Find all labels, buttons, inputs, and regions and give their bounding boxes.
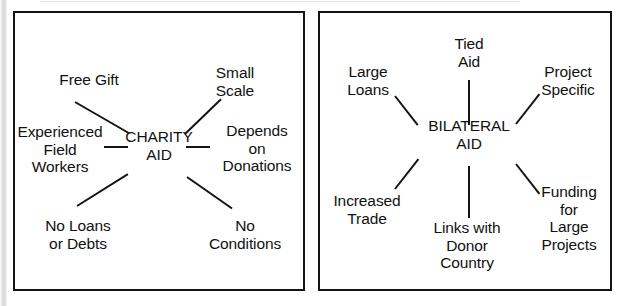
connector-links-with-donor-country [468, 166, 470, 218]
node-no-loans-or-debts: No Loans or Debts [45, 217, 111, 252]
node-funding-for-large-projects: Funding for Large Projects [541, 183, 596, 253]
node-depends-on-donations: Depends on Donations [223, 122, 292, 175]
panel-bilateral-aid: Tied Aid Large Loans Project Specific BI… [318, 11, 612, 291]
node-free-gift: Free Gift [59, 71, 118, 89]
node-project-specific: Project Specific [541, 63, 594, 98]
diagram-page: Free Gift Small Scale Experienced Field … [0, 0, 626, 306]
panel-charity-aid: Free Gift Small Scale Experienced Field … [13, 11, 305, 291]
node-small-scale: Small Scale [201, 64, 269, 99]
connector-funding-for-large-projects [515, 163, 540, 194]
node-increased-trade: Increased Trade [333, 192, 400, 227]
node-no-conditions: No Conditions [209, 217, 281, 252]
node-center-charity-aid: CHARITY AID [125, 128, 192, 164]
connector-large-loans [394, 95, 418, 125]
connector-increased-trade [394, 158, 419, 189]
node-large-loans: Large Loans [347, 63, 389, 98]
node-links-with-donor-country: Links with Donor Country [433, 219, 500, 272]
node-center-bilateral-aid: BILATERAL AID [428, 117, 510, 153]
node-experienced-field-workers: Experienced Field Workers [17, 123, 102, 176]
connector-project-specific [515, 93, 540, 124]
connector-no-loans-or-debts [76, 173, 128, 206]
scan-edge-artifact-top [40, 1, 520, 2]
connector-no-conditions [186, 176, 232, 209]
scan-edge-artifact-left [0, 0, 7, 306]
node-tied-aid: Tied Aid [454, 35, 483, 70]
